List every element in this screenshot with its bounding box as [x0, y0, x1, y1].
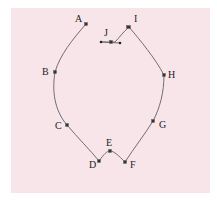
label-h: H [168, 69, 175, 80]
label-f: F [130, 159, 136, 170]
curve-diagram: A B C D E F G H I J [0, 0, 217, 200]
point-g[interactable] [152, 120, 155, 123]
label-j: J [104, 27, 108, 38]
j-handle-left[interactable] [100, 41, 103, 44]
label-d: D [89, 159, 96, 170]
point-h[interactable] [163, 74, 166, 77]
point-f[interactable] [124, 161, 127, 164]
label-g: G [159, 119, 166, 130]
point-d[interactable] [98, 160, 101, 163]
label-i: I [134, 13, 137, 24]
label-e: E [106, 137, 112, 148]
point-j[interactable] [110, 41, 113, 44]
point-i[interactable] [127, 26, 131, 29]
point-e[interactable] [109, 150, 112, 153]
label-a: A [75, 13, 83, 24]
label-c: C [55, 120, 62, 131]
point-c[interactable] [66, 124, 69, 127]
point-a[interactable] [85, 23, 88, 26]
point-b[interactable] [54, 71, 57, 74]
j-handle-right[interactable] [119, 42, 122, 45]
label-b: B [42, 66, 49, 77]
